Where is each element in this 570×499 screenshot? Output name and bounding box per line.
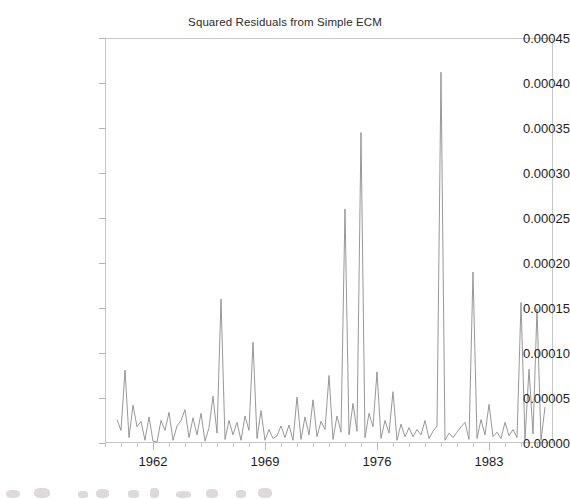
y-axis-tick-label: 0.00015 [474, 301, 570, 316]
y-axis-tick-mark [99, 38, 106, 39]
x-axis-tick-mark-minor [393, 443, 394, 447]
x-axis-tick-mark-minor [473, 443, 474, 447]
x-axis-tick-mark-minor [425, 443, 426, 447]
x-axis-tick-label: 1983 [475, 454, 504, 469]
y-axis-tick-mark [99, 353, 106, 354]
y-axis-tick-label: 0.00045 [474, 31, 570, 46]
scan-artifact-blob [236, 490, 246, 498]
x-axis-tick-mark-minor [233, 443, 234, 447]
y-axis-tick-mark [99, 128, 106, 129]
x-axis-tick-mark-minor [329, 443, 330, 447]
y-axis-tick-label: 0.00040 [474, 76, 570, 91]
y-axis-tick-label: 0.00030 [474, 166, 570, 181]
scan-artifact-blob [258, 488, 272, 498]
scan-artifact-blob [150, 488, 159, 498]
scan-artifact-blob [78, 491, 88, 498]
x-axis-tick-mark-minor [345, 443, 346, 447]
x-axis-tick-mark-minor [185, 443, 186, 447]
y-axis-tick-mark [99, 173, 106, 174]
x-axis-tick-mark-minor [249, 443, 250, 447]
x-axis-tick-mark-minor [505, 443, 506, 447]
x-axis-tick-label: 1962 [139, 454, 168, 469]
chart-title: Squared Residuals from Simple ECM [0, 16, 570, 28]
y-axis-tick-label: 0.00010 [474, 346, 570, 361]
y-axis-tick-label: 0.00020 [474, 256, 570, 271]
x-axis-tick-mark-minor [121, 443, 122, 447]
x-axis-tick-mark-major [265, 443, 266, 450]
x-axis-tick-label: 1969 [251, 454, 280, 469]
x-axis-tick-mark-minor [521, 443, 522, 447]
x-axis-tick-mark-minor [297, 443, 298, 447]
scan-artifact-blob [6, 490, 20, 498]
y-axis-tick-mark [99, 83, 106, 84]
x-axis-tick-mark-major [489, 443, 490, 450]
scan-artifact-blob [176, 491, 191, 498]
x-axis-tick-label: 1976 [363, 454, 392, 469]
x-axis-tick-mark-major [153, 443, 154, 450]
x-axis-tick-mark-minor [313, 443, 314, 447]
scan-artifact-blob [206, 489, 218, 498]
y-axis-tick-mark [99, 308, 106, 309]
y-axis-tick-mark [99, 263, 106, 264]
x-axis-tick-mark-minor [553, 443, 554, 447]
scan-artifact-blob [34, 488, 50, 498]
y-axis-tick-label: 0.00035 [474, 121, 570, 136]
x-axis-tick-mark-minor [201, 443, 202, 447]
x-axis-tick-mark-minor [105, 443, 106, 447]
x-axis-tick-mark-minor [537, 443, 538, 447]
x-axis-tick-mark-minor [441, 443, 442, 447]
x-axis-tick-mark-major [377, 443, 378, 450]
x-axis-tick-mark-minor [217, 443, 218, 447]
y-axis-tick-mark [99, 218, 106, 219]
series-line-chart [105, 38, 553, 443]
y-axis-tick-mark [99, 398, 106, 399]
y-axis-tick-label: 0.00005 [474, 391, 570, 406]
x-axis-tick-mark-minor [409, 443, 410, 447]
figure-container: Squared Residuals from Simple ECM 0.0004… [0, 0, 570, 499]
y-axis-tick-label: 0.00025 [474, 211, 570, 226]
scan-artifact-blob [128, 490, 139, 498]
x-axis-tick-mark-minor [137, 443, 138, 447]
page-scan-artifact [0, 486, 290, 499]
x-axis-tick-mark-minor [281, 443, 282, 447]
x-axis-tick-mark-minor [169, 443, 170, 447]
x-axis-tick-mark-minor [361, 443, 362, 447]
scan-artifact-blob [96, 489, 109, 498]
x-axis-tick-mark-minor [457, 443, 458, 447]
